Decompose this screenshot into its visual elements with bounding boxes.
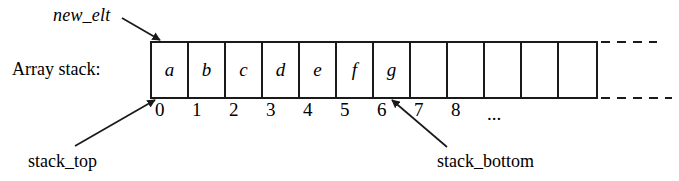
array-index-label: 0 xyxy=(155,100,165,119)
array-cell-filled: d xyxy=(263,43,300,97)
array-cell-empty xyxy=(522,43,559,97)
array-cell-empty xyxy=(485,43,522,97)
array-cell-empty xyxy=(559,43,596,97)
stack-bottom-label: stack_bottom xyxy=(437,152,534,170)
array-stack-caption: Array stack: xyxy=(12,60,100,78)
array-index-label: 3 xyxy=(266,100,276,119)
array-cell-filled: e xyxy=(300,43,337,97)
new-elt-label: new_elt xyxy=(53,6,110,24)
array-cell-filled: f xyxy=(337,43,374,97)
stack-top-label: stack_top xyxy=(28,152,97,170)
array-index-label: 4 xyxy=(303,100,313,119)
array-index-label: 1 xyxy=(192,100,202,119)
array-index-label: 8 xyxy=(451,100,461,119)
array-index-label: 2 xyxy=(229,100,239,119)
array-cell-filled: b xyxy=(189,43,226,97)
array-index-label: 5 xyxy=(340,100,350,119)
array-cell-empty xyxy=(448,43,485,97)
array-cell-empty xyxy=(411,43,448,97)
array-stack-diagram: new_elt Array stack: stack_top stack_bot… xyxy=(0,0,679,181)
array-index-ellipsis: ... xyxy=(487,104,501,123)
array-index-label: 7 xyxy=(414,100,424,119)
array-index-label: 6 xyxy=(377,100,387,119)
new-elt-leader-line xyxy=(122,18,160,40)
array-cell-filled: c xyxy=(226,43,263,97)
array-cell-filled: a xyxy=(152,43,189,97)
stack-top-leader-line xyxy=(75,100,155,146)
array-cell-filled: g xyxy=(374,43,411,97)
array-cells: abcdefg xyxy=(150,41,598,99)
